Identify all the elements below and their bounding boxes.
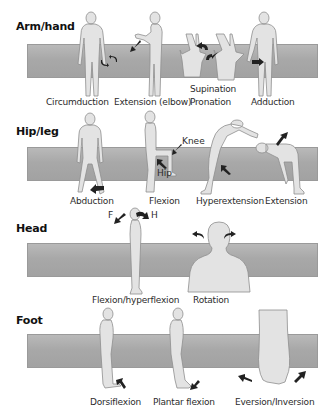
label-pronation: Pronation	[190, 97, 231, 107]
eversion-arrow-icon	[238, 374, 252, 384]
label-plantar-flexion: Plantar flexion	[153, 397, 215, 407]
up-right-arrow-icon	[276, 132, 288, 146]
down-left-arrow-icon	[130, 40, 142, 52]
label-supination: Supination	[190, 84, 236, 94]
annotation-f: F	[108, 210, 113, 220]
section-title-head: Head	[16, 222, 47, 235]
plantar-flexion-arrow-icon	[190, 380, 200, 391]
flexion-arrow-icon	[114, 213, 126, 224]
knee-arrow-icon	[172, 145, 182, 155]
band-head	[27, 243, 318, 277]
figure-hyperextension	[199, 118, 264, 198]
rotate-left-arrow-icon	[192, 231, 204, 241]
label-dorsiflexion: Dorsiflexion	[90, 397, 141, 407]
section-title-foot: Foot	[16, 314, 43, 327]
figure-dorsiflexion	[95, 308, 135, 393]
rotate-right-arrow-icon	[224, 231, 236, 241]
right-arrow-icon	[252, 58, 264, 66]
label-adduction: Adduction	[251, 97, 295, 107]
label-extension-leg: Extension	[265, 196, 307, 206]
inversion-arrow-icon	[294, 371, 306, 383]
label-rotation: Rotation	[193, 295, 229, 305]
figure-foot-top-view	[257, 310, 291, 385]
rotate-arrows-icon	[192, 40, 222, 64]
annotation-hip: Hip	[157, 168, 172, 178]
label-extension-elbow: Extension (elbow)	[114, 97, 191, 107]
label-flexion: Flexion	[149, 196, 180, 206]
annotation-h: H	[151, 210, 158, 220]
figure-adduction	[244, 10, 284, 100]
label-abduction: Abduction	[70, 196, 114, 206]
figure-extension-elbow	[128, 10, 168, 100]
section-title-arm-hand: Arm/hand	[16, 20, 75, 33]
figure-flexion-hyperflexion	[122, 208, 152, 298]
section-title-hip-leg: Hip/leg	[16, 125, 59, 138]
circular-arrows-icon	[100, 55, 118, 67]
label-hyperextension: Hyperextension	[196, 196, 264, 206]
push-arrow-icon	[221, 165, 231, 175]
dorsiflexion-arrow-icon	[116, 378, 126, 389]
label-flexion-hyperflexion: Flexion/hyperflexion	[92, 295, 179, 305]
hyperflexion-arrow-icon	[136, 210, 149, 220]
label-eversion-inversion: Eversion/Inversion	[235, 397, 314, 407]
label-circumduction: Circumduction	[46, 97, 109, 107]
figure-extension-leg	[256, 140, 306, 200]
left-arrow-icon	[90, 184, 104, 194]
